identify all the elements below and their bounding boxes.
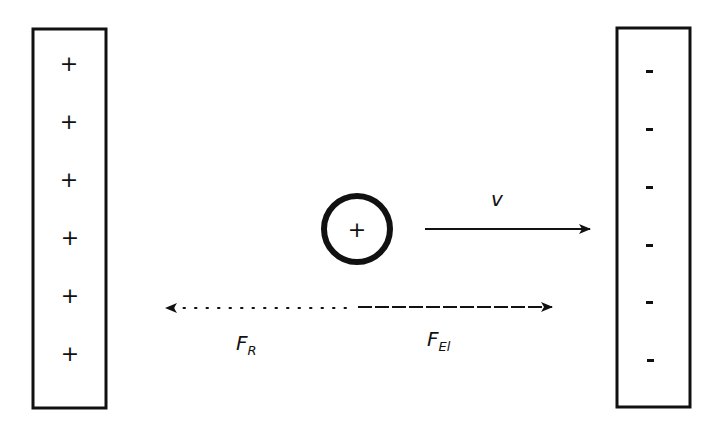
electric-force-vector: FEl	[358, 307, 552, 354]
plus-sign-icon: +	[348, 217, 366, 242]
minus-sign-icon	[646, 186, 653, 189]
velocity-vector: v	[425, 187, 590, 229]
plus-sign-icon: +	[60, 167, 78, 192]
velocity-label: v	[491, 187, 504, 211]
minus-sign-icon	[646, 301, 653, 304]
friction-force-label: FR	[236, 331, 257, 358]
diagram-canvas: + + + + + + + v FR FEl	[0, 0, 717, 430]
plus-sign-icon: +	[61, 283, 79, 308]
plus-sign-icon: +	[60, 51, 78, 76]
minus-sign-icon	[647, 359, 654, 362]
plus-sign-icon: +	[61, 341, 79, 366]
plus-sign-icon: +	[61, 225, 79, 250]
charged-particle: +	[324, 196, 390, 262]
left-plate-positive: + + + + + +	[33, 29, 106, 408]
minus-sign-icon	[646, 244, 653, 247]
electric-force-label: FEl	[427, 327, 451, 354]
right-plate-negative	[617, 28, 690, 407]
minus-sign-icon	[646, 128, 653, 131]
friction-force-vector: FR	[166, 308, 346, 358]
plus-sign-icon: +	[60, 109, 78, 134]
minus-sign-icon	[646, 70, 653, 73]
